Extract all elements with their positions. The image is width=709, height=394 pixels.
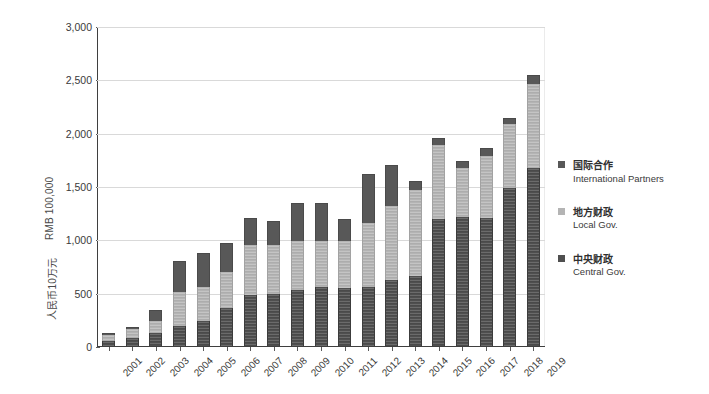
x-axis-label-2019: 2019 [545, 355, 569, 379]
bar-segment-central-gov-2010 [315, 287, 328, 347]
bar-segment-central-gov-2009 [291, 290, 304, 347]
x-axis-label-2018: 2018 [521, 355, 545, 379]
bar-2013 [385, 165, 398, 347]
bar-segment-local-gov-2003 [149, 321, 162, 333]
bar-2008 [267, 221, 280, 347]
bar-segment-central-gov-2003 [149, 333, 162, 347]
stacked-bar-chart: RMB 100,000 人民币10万元 05001,0001,5002,0002… [0, 0, 709, 394]
bar-segment-international-partners-2007 [244, 218, 257, 244]
bar-2011 [338, 219, 351, 347]
bar-2004 [173, 261, 186, 347]
x-axis-label-2003: 2003 [167, 355, 191, 379]
bar-2010 [315, 203, 328, 347]
bar-segment-international-partners-2012 [362, 174, 375, 223]
bar-segment-local-gov-2004 [173, 292, 186, 327]
y-axis-tick-label: 500 [74, 288, 92, 300]
bar-2003 [149, 310, 162, 347]
y-axis-tick-label: 1,000 [66, 234, 92, 246]
x-axis-tick-mark [345, 347, 346, 351]
bar-segment-local-gov-2009 [291, 241, 304, 290]
bar-segment-international-partners-2009 [291, 203, 304, 241]
bar-segment-local-gov-2013 [385, 206, 398, 281]
bar-2015 [432, 138, 445, 347]
x-axis-tick-mark [203, 347, 204, 351]
legend-item-local-gov[interactable]: 地方财政Local Gov. [558, 207, 698, 232]
x-axis-tick-mark [462, 347, 463, 351]
bar-segment-central-gov-2011 [338, 288, 351, 347]
bar-2012 [362, 174, 375, 347]
x-axis-label-2006: 2006 [238, 355, 262, 379]
legend-label-chinese: 中央财政 [573, 254, 698, 267]
x-axis-tick-mark [533, 347, 534, 351]
bar-segment-international-partners-2010 [315, 203, 328, 241]
bar-2019 [527, 75, 540, 347]
bar-2005 [197, 253, 210, 347]
x-axis-label-2013: 2013 [403, 355, 427, 379]
bar-segment-central-gov-2004 [173, 326, 186, 347]
x-axis-label-2016: 2016 [474, 355, 498, 379]
x-axis-tick-mark [392, 347, 393, 351]
bar-segment-international-partners-2014 [409, 181, 422, 191]
chart-legend: 国际合作International Partners地方财政Local Gov.… [558, 160, 698, 301]
bar-segment-central-gov-2015 [432, 219, 445, 347]
legend-label-chinese: 国际合作 [573, 160, 698, 173]
y-axis-tick-labels: 05001,0001,5002,0002,5003,000 [52, 27, 92, 347]
bar-2007 [244, 218, 257, 347]
bar-segment-local-gov-2017 [480, 156, 493, 218]
legend-item-international-partners[interactable]: 国际合作International Partners [558, 160, 698, 185]
x-axis-label-2001: 2001 [120, 355, 144, 379]
bar-segment-local-gov-2011 [338, 241, 351, 288]
bar-2009 [291, 203, 304, 347]
bar-segment-central-gov-2013 [385, 280, 398, 347]
bar-2016 [456, 161, 469, 347]
x-axis-label-2014: 2014 [427, 355, 451, 379]
bar-series-group [97, 27, 545, 347]
legend-item-central-gov[interactable]: 中央财政Central Gov. [558, 254, 698, 279]
x-axis-tick-mark [297, 347, 298, 351]
x-axis-tick-mark [274, 347, 275, 351]
legend-swatch-icon [558, 161, 565, 168]
x-axis-tick-mark [132, 347, 133, 351]
bar-segment-central-gov-2017 [480, 218, 493, 347]
x-axis-label-2004: 2004 [191, 355, 215, 379]
y-axis-tick-label: 0 [86, 341, 92, 353]
x-axis-tick-mark [250, 347, 251, 351]
bar-segment-local-gov-2018 [503, 124, 516, 188]
bar-2018 [503, 118, 516, 347]
x-axis-label-2017: 2017 [498, 355, 522, 379]
bar-segment-central-gov-2005 [197, 321, 210, 347]
x-axis-tick-mark [415, 347, 416, 351]
bar-segment-central-gov-2006 [220, 308, 233, 347]
bar-segment-international-partners-2008 [267, 221, 280, 246]
bar-segment-central-gov-2012 [362, 287, 375, 347]
bar-segment-international-partners-2003 [149, 310, 162, 322]
bar-segment-international-partners-2004 [173, 261, 186, 292]
bar-segment-local-gov-2006 [220, 272, 233, 308]
x-axis-label-2012: 2012 [380, 355, 404, 379]
x-axis-tick-mark [368, 347, 369, 351]
legend-swatch-icon [558, 255, 565, 262]
bar-segment-international-partners-2005 [197, 253, 210, 287]
bar-2002 [126, 327, 139, 347]
x-axis-label-2010: 2010 [333, 355, 357, 379]
bar-segment-local-gov-2005 [197, 287, 210, 321]
bar-segment-international-partners-2017 [480, 148, 493, 156]
x-axis-tick-mark [227, 347, 228, 351]
bar-segment-local-gov-2019 [527, 84, 540, 168]
bar-segment-international-partners-2006 [220, 243, 233, 272]
legend-label-chinese: 地方财政 [573, 207, 698, 220]
bar-segment-international-partners-2019 [527, 75, 540, 84]
y-axis-tick-label: 3,000 [66, 21, 92, 33]
bar-segment-central-gov-2007 [244, 295, 257, 347]
x-axis-tick-mark [510, 347, 511, 351]
legend-label-english: Local Gov. [573, 219, 698, 231]
x-axis-label-2007: 2007 [262, 355, 286, 379]
y-axis-tick-label: 2,000 [66, 128, 92, 140]
x-axis-tick-mark [180, 347, 181, 351]
x-axis-label-2005: 2005 [215, 355, 239, 379]
bar-segment-central-gov-2014 [409, 276, 422, 347]
bar-segment-international-partners-2013 [385, 165, 398, 206]
legend-swatch-icon [558, 208, 565, 215]
bar-segment-local-gov-2007 [244, 245, 257, 295]
bar-segment-central-gov-2016 [456, 217, 469, 347]
